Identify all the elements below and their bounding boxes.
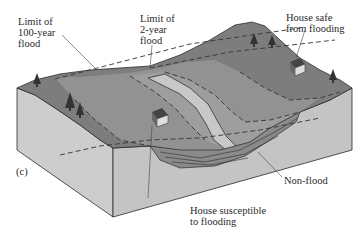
label-100-year-limit: Limit of 100-year flood [18, 16, 55, 49]
label-2-year-limit: Limit of 2-year flood [140, 13, 175, 46]
label-house-susceptible: House susceptible to flooding [190, 205, 266, 227]
panel-label: (c) [16, 166, 28, 177]
label-house-safe: House safe from flooding [286, 12, 345, 34]
label-non-flood: Non-flood [284, 175, 328, 186]
